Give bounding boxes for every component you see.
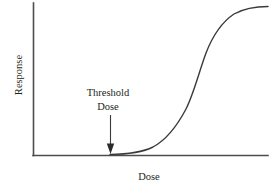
dose-response-figure: Threshold Dose Response Dose bbox=[0, 0, 279, 191]
dose-response-chart: Threshold Dose Response Dose bbox=[0, 0, 279, 191]
chart-background bbox=[0, 0, 279, 191]
threshold-annotation-line2: Dose bbox=[97, 101, 119, 112]
threshold-annotation-line1: Threshold bbox=[87, 87, 130, 98]
x-axis-label: Dose bbox=[138, 171, 160, 182]
y-axis-label: Response bbox=[13, 55, 24, 96]
